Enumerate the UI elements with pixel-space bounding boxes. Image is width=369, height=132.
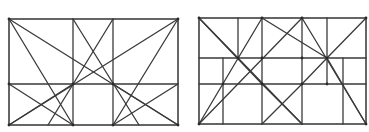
intersection-point — [301, 57, 304, 60]
intersection-point — [177, 124, 180, 127]
construction-line — [238, 58, 302, 124]
intersection-point — [198, 17, 201, 20]
intersection-point — [8, 124, 11, 127]
construction-line — [73, 19, 139, 125]
intersection-point — [365, 17, 368, 20]
left-construction-diagram — [8, 18, 180, 127]
intersection-point — [72, 83, 75, 86]
diagram-frame — [199, 18, 366, 124]
intersection-point — [8, 83, 11, 86]
construction-line — [113, 19, 178, 125]
intersection-point — [72, 124, 75, 127]
construction-line — [9, 19, 73, 125]
right-construction-diagram — [198, 17, 368, 126]
construction-line — [262, 18, 327, 58]
construction-line — [327, 18, 366, 58]
intersection-point — [261, 83, 264, 86]
construction-line — [302, 58, 327, 84]
intersection-point — [326, 83, 329, 86]
construction-diagrams — [0, 0, 369, 132]
construction-line — [327, 58, 366, 124]
construction-line — [199, 18, 262, 124]
intersection-point — [112, 124, 115, 127]
intersection-point — [112, 83, 115, 86]
intersection-point — [301, 83, 304, 86]
intersection-point — [237, 57, 240, 60]
intersection-point — [198, 123, 201, 126]
intersection-point — [8, 18, 11, 21]
construction-line — [199, 18, 238, 58]
intersection-point — [222, 83, 225, 86]
intersection-point — [301, 17, 304, 20]
intersection-point — [326, 57, 329, 60]
construction-line — [48, 19, 113, 125]
intersection-point — [261, 57, 264, 60]
intersection-point — [177, 18, 180, 21]
intersection-point — [261, 17, 264, 20]
intersection-point — [365, 123, 368, 126]
